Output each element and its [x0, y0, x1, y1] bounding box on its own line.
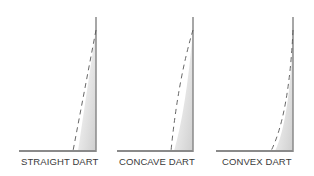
dart-diagram	[0, 0, 314, 176]
convex-dart-shade	[275, 30, 293, 151]
concave-dart-shade	[174, 30, 193, 151]
convex-dart-label: CONVEX DART	[222, 156, 292, 167]
convex-dart-figure	[216, 17, 293, 152]
straight-dart-label: STRAIGHT DART	[21, 156, 99, 167]
concave-dart-label: CONCAVE DART	[119, 156, 195, 167]
straight-dart-shade	[78, 30, 96, 151]
concave-dart-figure	[117, 17, 193, 152]
straight-dart-figure	[19, 17, 96, 152]
